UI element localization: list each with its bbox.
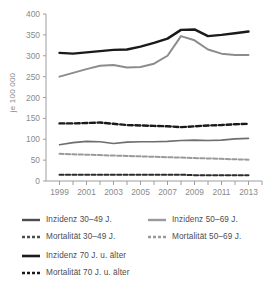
legend-label: Inzidenz 70 J. u. älter xyxy=(46,251,126,261)
legend-line-sample-dashed-icon xyxy=(148,232,166,242)
legend-line-sample-solid-icon xyxy=(22,251,40,261)
x-axis-tick-label: 2005 xyxy=(131,187,150,197)
y-axis-tick-label: 200 xyxy=(26,93,40,103)
y-axis-tick-label: 300 xyxy=(26,51,40,61)
legend-column-1: Inzidenz 30–49 J. Mortalität 30–49 J. xyxy=(22,212,115,246)
series-line xyxy=(60,123,249,128)
legend-line-sample-solid-icon xyxy=(148,215,166,225)
legend-item: Mortalität 30–49 J. xyxy=(22,229,115,244)
legend-label: Inzidenz 30–49 J. xyxy=(46,215,112,225)
legend-line-sample-dashed-icon xyxy=(22,268,40,278)
series-line xyxy=(60,154,249,160)
y-axis-tick-label: 250 xyxy=(26,72,40,82)
y-axis-tick-label: 100 xyxy=(26,134,40,144)
legend-line-sample-solid-icon xyxy=(22,215,40,225)
series-line xyxy=(60,138,249,144)
legend-label: Mortalität 50–69 J. xyxy=(172,232,241,242)
legend-label: Mortalität 30–49 J. xyxy=(46,232,115,242)
legend-column-2: Inzidenz 50–69 J. Mortalität 50–69 J. xyxy=(148,212,241,246)
legend-item: Mortalität 50–69 J. xyxy=(148,229,241,244)
legend-line-sample-dashed-icon xyxy=(22,232,40,242)
legend-label: Inzidenz 50–69 J. xyxy=(172,215,238,225)
series-line xyxy=(60,29,249,53)
x-axis-tick-label: 2007 xyxy=(158,187,177,197)
y-axis-tick-label: 400 xyxy=(26,9,40,19)
legend-column-3: Inzidenz 70 J. u. älter Mortalität 70 J.… xyxy=(22,248,130,282)
y-axis-tick-label: 350 xyxy=(26,30,40,40)
chart-legend: Inzidenz 30–49 J. Mortalität 30–49 J. In… xyxy=(0,206,267,289)
x-axis-tick-label: 2013 xyxy=(239,187,258,197)
line-chart-svg: 0501001502002503003504001999200120032005… xyxy=(0,0,267,200)
legend-item: Inzidenz 30–49 J. xyxy=(22,212,115,227)
legend-label: Mortalität 70 J. u. älter xyxy=(46,268,130,278)
chart-container: 0501001502002503003504001999200120032005… xyxy=(0,0,267,289)
x-axis-tick-label: 2003 xyxy=(104,187,123,197)
legend-item: Inzidenz 70 J. u. älter xyxy=(22,248,130,263)
y-axis-tick-label: 150 xyxy=(26,113,40,123)
y-axis-tick-label: 50 xyxy=(31,155,41,165)
legend-item: Mortalität 70 J. u. älter xyxy=(22,265,130,280)
legend-item: Inzidenz 50–69 J. xyxy=(148,212,241,227)
x-axis-tick-label: 1999 xyxy=(50,187,69,197)
plot-area: 0501001502002503003504001999200120032005… xyxy=(0,0,267,200)
y-axis-unit-label: je 100 000 xyxy=(8,57,17,129)
x-axis-tick-label: 2011 xyxy=(212,187,230,197)
y-axis-tick-label: 0 xyxy=(35,176,40,186)
x-axis-tick-label: 2001 xyxy=(77,187,96,197)
x-axis-tick-label: 2009 xyxy=(185,187,204,197)
